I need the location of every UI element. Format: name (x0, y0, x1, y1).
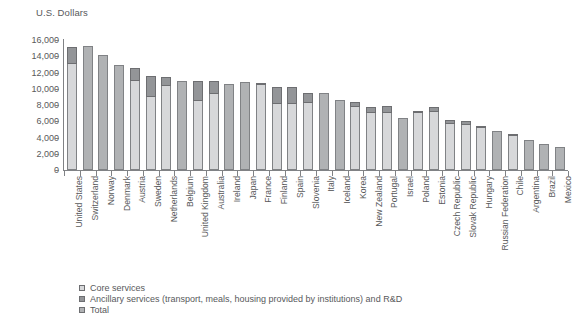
x-axis-category-label: Japan (249, 176, 258, 199)
bar (130, 68, 140, 170)
bar-group (492, 40, 502, 170)
bar-group (461, 40, 471, 170)
bar-group (287, 40, 297, 170)
bar-segment-core (193, 101, 203, 170)
bar (555, 147, 565, 170)
bar-group (335, 40, 345, 170)
bar-segment-total (177, 81, 187, 170)
x-axis-category-label: Austria (138, 176, 147, 203)
y-axis-tick (55, 40, 59, 41)
legend-item-ancillary[interactable]: Ancillary services (transport, meals, ho… (79, 294, 402, 304)
bar (508, 134, 518, 170)
bar-group (508, 40, 518, 170)
bar-group (224, 40, 234, 170)
bar-segment-core (272, 104, 282, 170)
bar (98, 55, 108, 170)
y-axis-tick-labels: 16,00014,00012,00010,0008,0006,0004,0002… (0, 40, 59, 170)
bar-group (272, 40, 282, 170)
bar-group (539, 40, 549, 170)
x-axis-category-label: Australia (217, 176, 226, 209)
bar (366, 107, 376, 170)
x-axis-category-label: Chile (516, 176, 525, 196)
bar-group (555, 40, 565, 170)
bar-group (398, 40, 408, 170)
x-axis-category-label: Portugal (390, 176, 399, 208)
bar-group (83, 40, 93, 170)
bar (445, 120, 455, 170)
bar-group (303, 40, 313, 170)
bar (256, 83, 266, 170)
bar-group (98, 40, 108, 170)
x-axis-category-label: Spain (296, 176, 305, 198)
bar (413, 111, 423, 170)
bar (382, 106, 392, 170)
bar-segment-ancillary (193, 81, 203, 101)
x-axis-category-labels: United StatesSwitzerlandNorwayDenmarkAus… (64, 176, 568, 266)
x-axis-category-label: Hungary (485, 176, 494, 208)
bar-group (130, 40, 140, 170)
bar-group (366, 40, 376, 170)
bar-segment-total (224, 84, 234, 170)
x-axis-category-label: Belgium (186, 176, 195, 207)
bar-group (161, 40, 171, 170)
x-axis-category-label: Finland (280, 176, 289, 204)
bar-segment-core (350, 107, 360, 170)
bar (476, 126, 486, 170)
x-axis-category-label: France (264, 176, 273, 203)
bar-segment-core (209, 94, 219, 170)
bar-segment-core (429, 112, 439, 171)
y-axis-tick (55, 105, 59, 106)
x-axis-category-label: Denmark (123, 176, 132, 211)
x-axis-category-label: Slovak Republic (469, 176, 478, 238)
bar (146, 76, 156, 170)
bar-group (177, 40, 187, 170)
legend-label: Total (90, 305, 109, 315)
legend-label: Ancillary services (transport, meals, ho… (90, 294, 402, 304)
bar-segment-ancillary (67, 47, 77, 65)
bar (83, 46, 93, 170)
bar (461, 121, 471, 170)
x-axis-category-label: Norway (107, 176, 116, 205)
bar-segment-ancillary (209, 81, 219, 93)
y-axis-tick (55, 121, 59, 122)
bar-segment-core (445, 124, 455, 170)
x-axis-category-label: Switzerland (91, 176, 100, 220)
bar-segment-core (256, 85, 266, 170)
bar-group (382, 40, 392, 170)
x-axis-category-label: Russian Federation (501, 176, 510, 251)
legend-item-core[interactable]: Core services (79, 283, 402, 293)
bar (114, 65, 124, 170)
x-axis-category-label: Brazil (548, 176, 557, 198)
x-axis-category-label: United States (75, 176, 84, 228)
legend-item-total[interactable]: Total (79, 305, 402, 315)
bar (303, 93, 313, 170)
y-axis-tick (55, 73, 59, 74)
y-axis-tick (55, 56, 59, 57)
bar-segment-core (146, 97, 156, 170)
x-axis-category-label: Netherlands (170, 176, 179, 222)
x-axis-category-label: Estonia (438, 176, 447, 205)
bar (539, 144, 549, 170)
bar-group (476, 40, 486, 170)
bar-segment-total (114, 65, 124, 170)
bar-group (445, 40, 455, 170)
bar-segment-core (161, 86, 171, 170)
bar-segment-core (476, 128, 486, 170)
bar-segment-core (67, 64, 77, 170)
bar (319, 93, 329, 170)
bar-segment-total (335, 100, 345, 170)
bar-segment-core (413, 113, 423, 170)
bar (429, 107, 439, 170)
bar-segment-ancillary (303, 93, 313, 103)
x-axis-category-label: Israel (406, 176, 415, 197)
y-axis-tick (55, 154, 59, 155)
bar (209, 81, 219, 170)
bar (177, 81, 187, 170)
bar (350, 102, 360, 170)
x-axis-category-label: Sweden (154, 176, 163, 207)
bar-segment-total (319, 93, 329, 170)
bar-segment-total (240, 82, 250, 170)
bar (224, 84, 234, 170)
bar-group (67, 40, 77, 170)
bar (272, 87, 282, 170)
